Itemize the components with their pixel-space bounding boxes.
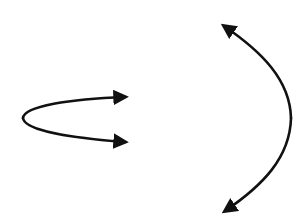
parabolas-diagram [0, 0, 303, 221]
right-parabola [224, 26, 291, 211]
diagram-canvas [0, 0, 303, 221]
left-parabola [23, 97, 125, 142]
right-parabola-lower-arm [225, 118, 291, 211]
left-parabola-upper-arm [23, 97, 125, 118]
left-parabola-lower-arm [23, 118, 125, 142]
right-parabola-upper-arm [224, 26, 291, 118]
